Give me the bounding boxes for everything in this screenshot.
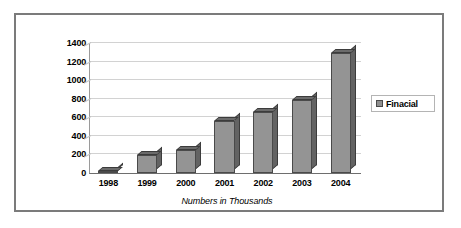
x-axis-tick-label: 2000 — [166, 178, 205, 189]
chart-bar — [137, 155, 157, 173]
plot-area — [89, 43, 361, 174]
y-axis: 1400120010008006004002000 — [42, 37, 86, 179]
x-axis-tick-label: 1998 — [89, 178, 128, 189]
chart-bar-face — [292, 100, 312, 173]
y-axis-tick-label: 400 — [42, 131, 86, 141]
plot-backwall — [90, 43, 361, 173]
chart-bar-side — [235, 113, 240, 169]
x-axis-tick-label: 2001 — [205, 178, 244, 189]
x-axis: 1998199920002001200220032004 — [89, 178, 365, 192]
chart-bar-face — [331, 53, 351, 173]
y-axis-tick-label: 600 — [42, 112, 86, 122]
gridline — [90, 42, 361, 43]
legend-swatch-icon — [376, 100, 383, 107]
chart-bar — [214, 121, 234, 173]
chart-bar — [253, 112, 273, 173]
chart-bar — [331, 53, 351, 173]
x-axis-tick-label: 2002 — [244, 178, 283, 189]
chart-bar — [176, 150, 196, 173]
chart-bar — [292, 100, 312, 173]
x-axis-tick-label: 2003 — [283, 178, 322, 189]
y-axis-tick-label: 0 — [42, 168, 86, 178]
gridline — [90, 98, 361, 99]
chart-frame: 1400120010008006004002000 19981999200020… — [14, 13, 444, 212]
chart-bar-top — [98, 167, 123, 171]
chart-bar-side — [351, 45, 356, 169]
y-axis-tick-label: 1000 — [42, 75, 86, 85]
chart-bar-top — [292, 96, 317, 100]
gridline — [90, 79, 361, 80]
chart-bar-face — [98, 171, 118, 173]
chart-bar-side — [273, 104, 278, 169]
x-axis-tick-label: 1999 — [128, 178, 167, 189]
chart-caption: Numbers in Thousands — [89, 196, 365, 206]
chart-bar-top — [176, 146, 201, 150]
y-axis-tick-label: 1200 — [42, 57, 86, 67]
y-axis-tick-label: 1400 — [42, 38, 86, 48]
y-axis-tick-label: 200 — [42, 149, 86, 159]
chart-bar-face — [137, 155, 157, 173]
chart-bar-face — [253, 112, 273, 173]
chart-bar-side — [312, 91, 317, 169]
y-axis-tick-label: 800 — [42, 94, 86, 104]
chart-legend: Finacial — [371, 95, 435, 112]
legend-item-label: Finacial — [386, 99, 418, 109]
chart-bar-face — [176, 150, 196, 173]
gridline — [90, 61, 361, 62]
chart-bar — [98, 171, 118, 173]
x-axis-tick-label: 2004 — [321, 178, 360, 189]
chart-bar-face — [214, 121, 234, 173]
